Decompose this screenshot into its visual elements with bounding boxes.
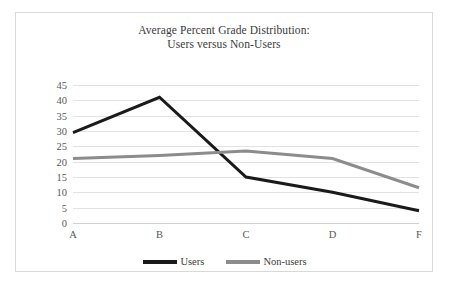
chart-border: Average Percent Grade Distribution: User… <box>15 12 433 272</box>
legend-label: Non-users <box>263 256 306 267</box>
y-axis-tick-label: 30 <box>57 126 68 137</box>
y-axis-tick-label: 20 <box>57 156 68 167</box>
y-axis-tick-label: 40 <box>57 95 68 106</box>
chart-title-line-2: Users versus Non-Users <box>167 38 280 50</box>
y-axis-tick-label: 35 <box>57 110 68 121</box>
y-axis-tick-label: 10 <box>57 187 68 198</box>
legend-item[interactable]: Users <box>143 256 204 267</box>
y-axis-tick-label: 0 <box>62 218 67 229</box>
series-lines <box>73 85 419 223</box>
legend-color-swatch <box>143 260 177 264</box>
plot-area: 454035302520151050 ABCDF <box>73 85 419 223</box>
y-axis-tick-label: 45 <box>57 80 68 91</box>
x-axis-tick-label: D <box>329 229 337 240</box>
series-line <box>73 151 419 188</box>
y-axis-tick-label: 15 <box>57 172 68 183</box>
series-line <box>73 97 419 210</box>
x-axis-tick-label: A <box>69 229 77 240</box>
legend-label: Users <box>180 256 204 267</box>
legend-color-swatch <box>226 260 260 264</box>
chart-title: Average Percent Grade Distribution: User… <box>16 23 432 51</box>
x-axis-tick-label: B <box>156 229 163 240</box>
x-axis-tick-label: F <box>416 229 422 240</box>
x-axis-tick-label: C <box>242 229 249 240</box>
y-axis-tick-label: 25 <box>57 141 68 152</box>
chart-legend: UsersNon-users <box>16 256 434 267</box>
y-axis-tick-label: 5 <box>62 202 67 213</box>
legend-item[interactable]: Non-users <box>226 256 306 267</box>
x-axis-line <box>73 223 419 224</box>
chart-title-line-1: Average Percent Grade Distribution: <box>138 24 310 36</box>
chart-figure: Average Percent Grade Distribution: User… <box>0 0 452 288</box>
